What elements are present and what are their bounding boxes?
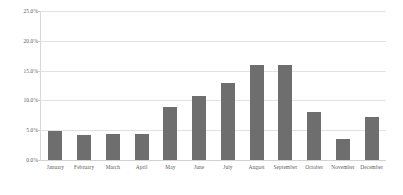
bar-chart: 0.0%5.0%10.0%15.0%20.0%25.0% JanuaryFebr…	[0, 0, 403, 195]
bar-slot	[271, 11, 300, 160]
bar-slot	[127, 11, 156, 160]
y-axis-tick-mark	[37, 130, 40, 131]
bar	[221, 83, 235, 160]
bar-slot	[329, 11, 358, 160]
bar	[48, 131, 62, 160]
y-axis-tick-mark	[37, 160, 40, 161]
y-axis-tick-mark	[37, 71, 40, 72]
x-axis-tick-label: April	[136, 164, 148, 170]
bar	[192, 96, 206, 160]
bar-slot	[41, 11, 70, 160]
x-axis-tick-label: November	[331, 164, 354, 170]
bar-slot	[70, 11, 99, 160]
x-axis-tick-label: August	[249, 164, 265, 170]
x-axis-tick-label: January	[47, 164, 64, 170]
x-axis-tick-label: October	[305, 164, 323, 170]
y-axis-tick-label: 5.0%	[2, 127, 38, 133]
x-axis-tick-labels: JanuaryFebruaryMarchAprilMayJuneJulyAugu…	[41, 164, 386, 180]
x-axis-tick-label: December	[360, 164, 383, 170]
y-axis-tick-label: 10.0%	[2, 97, 38, 103]
y-axis-tick-mark	[37, 100, 40, 101]
y-axis-tick-mark	[37, 41, 40, 42]
bar-slot	[300, 11, 329, 160]
x-axis-tick-label: September	[273, 164, 297, 170]
bar-slot	[357, 11, 386, 160]
bar	[307, 112, 321, 160]
y-axis-tick-label: 0.0%	[2, 157, 38, 163]
gridline	[40, 160, 386, 161]
bar-slot	[99, 11, 128, 160]
bar-slot	[242, 11, 271, 160]
bars-layer	[41, 11, 386, 160]
y-axis-tick-label: 15.0%	[2, 68, 38, 74]
y-axis-tick-labels: 0.0%5.0%10.0%15.0%20.0%25.0%	[0, 0, 38, 195]
y-axis-tick-mark	[37, 11, 40, 12]
bar	[278, 65, 292, 160]
x-axis-tick-label: July	[223, 164, 232, 170]
x-axis-tick-label: February	[74, 164, 94, 170]
bar	[135, 134, 149, 160]
bar	[77, 135, 91, 160]
bar-slot	[185, 11, 214, 160]
y-axis-tick-label: 20.0%	[2, 38, 38, 44]
bar	[163, 107, 177, 160]
bar	[336, 139, 350, 160]
bar	[106, 134, 120, 160]
y-axis-tick-label: 25.0%	[2, 8, 38, 14]
x-axis-tick-label: June	[194, 164, 204, 170]
bar	[365, 117, 379, 160]
bar-slot	[156, 11, 185, 160]
x-axis-tick-label: March	[106, 164, 120, 170]
x-axis-tick-label: May	[165, 164, 175, 170]
bar	[250, 65, 264, 160]
bar-slot	[214, 11, 243, 160]
